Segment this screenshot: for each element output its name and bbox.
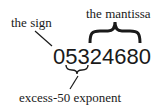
sign-pointer-line	[35, 31, 52, 46]
annotation-lines	[0, 0, 158, 112]
mantissa-brace-icon	[90, 22, 140, 43]
exponent-pointer-line	[70, 76, 78, 89]
exponent-brace-icon	[66, 65, 88, 74]
